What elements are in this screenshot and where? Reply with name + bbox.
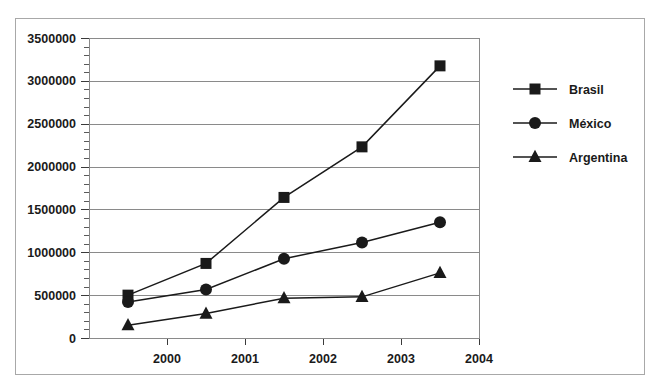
legend-marker-circle <box>529 117 541 129</box>
y-tick-label: 3500000 <box>27 32 76 46</box>
data-point-marker <box>435 60 446 71</box>
x-tick-label: 2001 <box>231 352 259 366</box>
y-tick-label: 500000 <box>34 289 76 303</box>
data-point-marker <box>122 296 134 308</box>
x-tick-label: 2003 <box>387 352 415 366</box>
x-tick-label: 2004 <box>465 352 493 366</box>
data-point-marker <box>201 258 212 269</box>
y-tick-label: 0 <box>69 332 76 346</box>
y-tick-label: 1000000 <box>27 246 76 260</box>
line-chart: 0500000100000015000002000000250000030000… <box>16 19 644 374</box>
y-tick-label: 1500000 <box>27 203 76 217</box>
y-tick-label: 2500000 <box>27 117 76 131</box>
legend: BrasilMéxicoArgentina <box>513 83 628 165</box>
legend-item-argentina[interactable]: Argentina <box>513 150 628 165</box>
data-point-marker <box>279 192 290 203</box>
legend-label: México <box>569 117 612 131</box>
x-tick-label: 2002 <box>309 352 337 366</box>
legend-label: Argentina <box>569 151 628 165</box>
x-tick-label: 2000 <box>153 352 181 366</box>
data-point-marker <box>356 236 368 248</box>
x-axis-tick-labels: 20002001200220032004 <box>153 352 493 366</box>
y-axis-minor-ticks <box>81 39 89 339</box>
legend-label: Brasil <box>569 83 604 97</box>
legend-marker-square <box>530 84 541 95</box>
legend-marker-triangle <box>529 150 542 162</box>
data-point-marker <box>434 266 447 278</box>
data-point-marker <box>357 141 368 152</box>
y-tick-label: 2000000 <box>27 160 76 174</box>
legend-item-brasil[interactable]: Brasil <box>513 83 604 97</box>
data-point-marker <box>278 253 290 265</box>
chart-figure: 0500000100000015000002000000250000030000… <box>15 18 645 375</box>
y-axis-tick-labels: 0500000100000015000002000000250000030000… <box>27 32 76 346</box>
data-point-marker <box>278 291 291 303</box>
y-tick-label: 3000000 <box>27 74 76 88</box>
data-point-marker <box>200 284 212 296</box>
legend-item-méxico[interactable]: México <box>513 117 612 131</box>
series-argentina <box>122 266 447 330</box>
data-point-marker <box>434 216 446 228</box>
